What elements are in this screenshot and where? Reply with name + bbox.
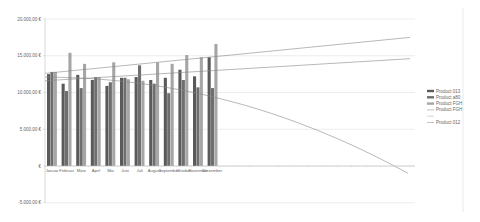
bar-product-fgh	[156, 62, 159, 166]
legend-label: Product FGH	[436, 101, 462, 106]
bar-product-fgh	[200, 57, 203, 166]
legend-swatch	[427, 90, 434, 92]
bar-product-013	[178, 70, 181, 166]
chart-background	[0, 0, 480, 222]
x-tick-label: Januar	[46, 168, 59, 173]
bar-product-fgh	[171, 64, 174, 166]
bar-product-013	[76, 75, 79, 166]
x-tick-label: Juni	[121, 168, 129, 173]
legend-label: Product FGH	[436, 107, 462, 112]
bar-product-a80	[109, 82, 112, 166]
bar-product-013	[120, 78, 123, 166]
chart: 20.000,00 €15.000,00 €10.000,00 €5.000,0…	[0, 0, 480, 222]
y-tick-label: -5.000,00 €	[18, 200, 41, 205]
bar-product-013	[164, 78, 167, 166]
bar-product-013	[91, 80, 94, 166]
legend-label: Product a80	[436, 95, 461, 100]
x-tick-label: April	[92, 168, 100, 173]
bar-product-a80	[211, 88, 214, 166]
bar-product-a80	[94, 77, 97, 166]
bar-product-a80	[153, 84, 156, 166]
bar-product-a80	[167, 93, 170, 166]
bar-product-013	[135, 77, 138, 166]
x-tick-label: Juli	[137, 168, 143, 173]
bar-product-fgh	[83, 64, 86, 166]
bar-product-a80	[138, 65, 141, 166]
bar-product-013	[62, 84, 65, 166]
bar-product-013	[105, 86, 108, 166]
legend-swatch	[427, 96, 434, 98]
y-tick-label: 10.000,00 €	[17, 90, 41, 95]
y-tick-label: 5.000,00 €	[20, 127, 42, 132]
bar-product-fgh	[98, 77, 101, 166]
x-tick-label: Dezember	[203, 168, 223, 173]
bar-product-fgh	[112, 62, 115, 166]
y-tick-label: 20.000,00 €	[17, 17, 41, 22]
bar-product-013	[149, 80, 152, 166]
bar-product-a80	[50, 72, 53, 166]
legend-label: Product 012	[436, 120, 461, 125]
bar-product-fgh	[68, 53, 71, 166]
bar-product-fgh	[141, 81, 144, 166]
bar-product-013	[208, 57, 211, 166]
y-tick-label: 15.000,00 €	[17, 53, 41, 58]
x-tick-label: Februar	[59, 168, 74, 173]
legend-label: Product 013	[436, 89, 461, 94]
legend-swatch	[427, 102, 434, 104]
bar-product-fgh	[214, 44, 217, 166]
x-tick-label: März	[77, 168, 86, 173]
bar-product-fgh	[127, 79, 130, 166]
bar-product-a80	[182, 80, 185, 166]
bar-product-a80	[123, 78, 126, 166]
bar-product-013	[193, 76, 196, 166]
bar-product-013	[47, 74, 50, 166]
x-tick-label: Mai	[107, 168, 114, 173]
bar-product-fgh	[54, 72, 57, 166]
bar-product-a80	[65, 91, 68, 166]
bar-product-fgh	[185, 55, 188, 166]
bar-product-a80	[80, 88, 83, 166]
bar-product-a80	[196, 87, 199, 166]
